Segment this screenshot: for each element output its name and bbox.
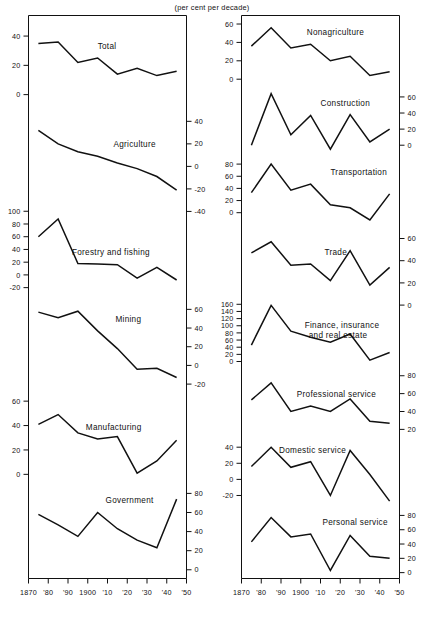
series-label: Manufacturing — [86, 423, 142, 432]
x-tick-label: '90 — [276, 588, 286, 597]
x-tick-label: '80 — [256, 588, 266, 597]
y-tick-label: 0 — [16, 271, 20, 280]
panel-finance-insurance-and-real-estate: 020406080100120140160Finance, insurancea… — [221, 300, 390, 366]
x-tick-label: 1900 — [292, 588, 309, 597]
y-tick-label: -40 — [195, 207, 206, 216]
y-tick-label: 160 — [221, 300, 234, 309]
y-tick-label: 0 — [195, 162, 199, 171]
chart-svg: (per cent per decade)1870'80'901900'10'2… — [0, 0, 425, 618]
panel-nonagriculture: 0204060Nonagriculture — [225, 20, 390, 84]
y-tick-label: 40 — [225, 38, 233, 47]
panel-forestry-and-fishing: -20020406080100Forestry and fishing — [8, 207, 177, 292]
y-tick-label: 60 — [225, 172, 233, 181]
series-label: Finance, insurance — [305, 321, 380, 330]
y-tick-label: 80 — [225, 160, 233, 169]
series-label: Forestry and fishing — [72, 248, 150, 257]
y-tick-label: 20 — [12, 258, 20, 267]
y-tick-label: 0 — [16, 90, 20, 99]
series-label: Construction — [321, 99, 371, 108]
series-line — [38, 311, 176, 377]
series-label: Trade — [324, 248, 347, 257]
y-tick-label: 0 — [408, 141, 412, 150]
y-tick-label: 20 — [408, 425, 416, 434]
series-line — [251, 447, 389, 501]
y-tick-label: 40 — [12, 245, 20, 254]
x-tick-label: '80 — [43, 588, 53, 597]
x-tick-label: '30 — [142, 588, 152, 597]
series-label-line2: and real estate — [309, 331, 368, 340]
y-tick-label: 0 — [408, 301, 412, 310]
y-tick-label: 40 — [195, 527, 203, 536]
series-label: Agriculture — [113, 140, 156, 149]
x-tick-label: '20 — [335, 588, 345, 597]
series-label: Domestic service — [279, 446, 346, 455]
y-tick-label: 20 — [195, 342, 203, 351]
y-tick-label: 0 — [229, 75, 233, 84]
series-label: Total — [98, 42, 117, 51]
panel-frame-left — [29, 16, 187, 579]
x-tick-label: 1900 — [79, 588, 96, 597]
y-tick-label: 60 — [195, 305, 203, 314]
series-line — [38, 130, 176, 190]
y-tick-label: 0 — [229, 475, 233, 484]
series-label: Professional service — [297, 390, 376, 399]
y-tick-label: 40 — [195, 324, 203, 333]
y-tick-label: 20 — [225, 196, 233, 205]
y-tick-label: 100 — [8, 207, 21, 216]
series-line — [38, 499, 176, 548]
chart-figure: (per cent per decade)1870'80'901900'10'2… — [0, 0, 425, 618]
y-tick-label: 60 — [408, 93, 416, 102]
y-tick-label: 40 — [408, 256, 416, 265]
y-tick-label: 80 — [12, 220, 20, 229]
y-tick-label: 20 — [225, 56, 233, 65]
x-tick-label: '50 — [182, 588, 192, 597]
y-tick-label: 0 — [195, 565, 199, 574]
y-tick-label: 60 — [408, 525, 416, 534]
y-tick-label: 0 — [408, 568, 412, 577]
y-tick-label: 60 — [408, 389, 416, 398]
y-tick-label: 40 — [195, 117, 203, 126]
y-tick-label: 60 — [12, 232, 20, 241]
x-tick-label: 1870 — [20, 588, 37, 597]
series-label: Nonagriculture — [307, 28, 365, 37]
x-tick-label: '40 — [162, 588, 172, 597]
x-tick-label: '10 — [316, 588, 326, 597]
panel-mining: -200204060Mining — [38, 305, 205, 389]
y-tick-label: 20 — [408, 554, 416, 563]
y-tick-label: 0 — [16, 470, 20, 479]
y-tick-label: 40 — [408, 407, 416, 416]
panel-professional-service: 20406080Professional service — [251, 371, 416, 434]
series-label: Transportation — [330, 168, 387, 177]
x-tick-label: '10 — [103, 588, 113, 597]
y-tick-label: 60 — [225, 20, 233, 29]
y-tick-label: 20 — [408, 279, 416, 288]
panel-personal-service: 020406080Personal service — [251, 511, 416, 577]
y-tick-label: -20 — [195, 185, 206, 194]
series-label: Mining — [115, 315, 141, 324]
y-tick-label: 20 — [12, 446, 20, 455]
y-tick-label: 20 — [195, 139, 203, 148]
y-tick-label: 80 — [408, 511, 416, 520]
x-tick-label: '90 — [63, 588, 73, 597]
y-tick-label: -20 — [195, 380, 206, 389]
x-tick-label: '30 — [355, 588, 365, 597]
panel-agriculture: -40-2002040Agriculture — [38, 117, 205, 216]
panel-government: 020406080Government — [38, 489, 203, 574]
panel-transportation: 020406080Transportation — [225, 160, 390, 220]
y-tick-label: 80 — [195, 489, 203, 498]
y-tick-label: 40 — [408, 109, 416, 118]
y-tick-label: 40 — [408, 540, 416, 549]
y-tick-label: 60 — [12, 397, 20, 406]
y-tick-label: -20 — [10, 283, 21, 292]
y-tick-label: 20 — [195, 546, 203, 555]
y-tick-label: 20 — [225, 459, 233, 468]
y-tick-label: 40 — [12, 421, 20, 430]
y-tick-label: 60 — [195, 508, 203, 517]
y-tick-label: 40 — [225, 443, 233, 452]
x-tick-label: 1870 — [233, 588, 250, 597]
y-tick-label: -20 — [223, 491, 234, 500]
y-tick-label: 40 — [12, 32, 20, 41]
x-tick-label: '50 — [395, 588, 405, 597]
header-note: (per cent per decade) — [175, 3, 250, 12]
y-tick-label: 80 — [408, 371, 416, 380]
